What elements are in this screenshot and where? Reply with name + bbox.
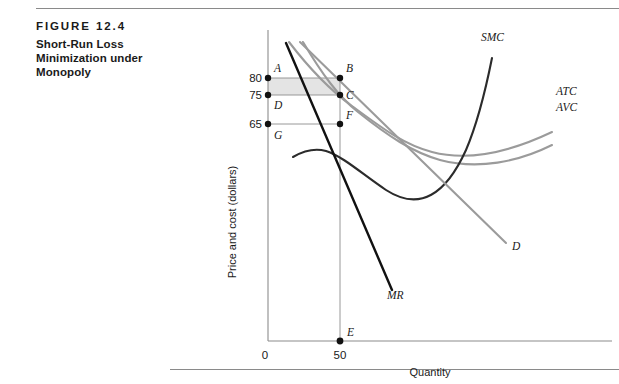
y-tick-label-65: 65 [249, 118, 262, 130]
demand-curve [300, 42, 506, 243]
atc-curve [289, 42, 552, 156]
monopoly-loss-chart: A B C D F G E SMC ATC AVC D MR 80 75 65 … [0, 0, 619, 384]
label-point-A: A [273, 62, 282, 74]
x-axis-title: Quantity [410, 366, 451, 378]
label-smc-curve: SMC [481, 31, 504, 43]
y-tick-label-75: 75 [249, 89, 262, 101]
label-point-E: E [346, 326, 354, 338]
point-E [337, 338, 344, 345]
point-B [337, 75, 343, 81]
label-atc-curve: ATC [555, 85, 577, 97]
label-avc-curve: AVC [555, 101, 577, 113]
point-C [337, 92, 343, 98]
label-mr-curve: MR [386, 289, 404, 301]
x-tick-label-0: 0 [262, 349, 268, 361]
y-tick-label-80: 80 [249, 72, 262, 84]
label-demand-curve: D [511, 240, 521, 252]
point-F [337, 121, 343, 127]
figure-page: FIGURE 12.4 Short-Run Loss Minimization … [0, 0, 619, 384]
point-D [265, 92, 271, 98]
x-tick-label-50: 50 [334, 349, 347, 361]
label-point-B: B [346, 62, 353, 74]
label-point-G: G [274, 129, 283, 141]
point-G [265, 121, 271, 127]
label-point-C: C [346, 89, 354, 101]
label-point-F: F [345, 109, 354, 121]
point-A [265, 75, 271, 81]
y-axis-title: Price and cost (dollars) [226, 166, 238, 279]
label-point-D: D [273, 99, 283, 111]
